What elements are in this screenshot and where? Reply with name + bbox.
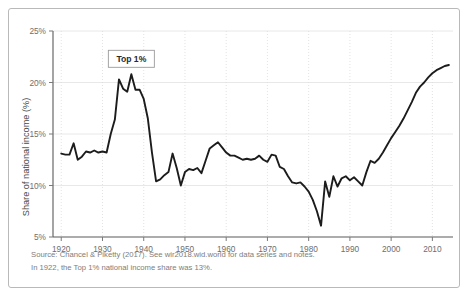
source-note: Source: Chancel & Piketty (2017). See wi… [31, 250, 315, 259]
y-axis-title: Share of national income (%) [21, 98, 31, 216]
legend-label-text: Top 1% [116, 54, 146, 64]
y-tick-label: 5% [34, 232, 47, 242]
y-tick-label: 15% [29, 129, 46, 139]
series-line-top-1 [61, 65, 449, 226]
legend-top-1-percent: Top 1% [108, 50, 154, 67]
y-tick-label: 25% [29, 26, 46, 36]
data-note: In 1922, the Top 1% national income shar… [31, 263, 212, 272]
tick-labels: 5%10%15%20%25%19201930194019501960197019… [29, 26, 442, 254]
x-tick-label: 2000 [382, 244, 401, 254]
x-tick-label: 2010 [423, 244, 442, 254]
y-tick-label: 20% [29, 78, 46, 88]
y-tick-label: 10% [29, 181, 46, 191]
line-chart: 5%10%15%20%25%19201930194019501960197019… [9, 9, 461, 289]
chart-card: 5%10%15%20%25%19201930194019501960197019… [8, 8, 460, 288]
x-tick-label: 1990 [341, 244, 360, 254]
chart-plot-container: 5%10%15%20%25%19201930194019501960197019… [9, 9, 461, 289]
series-top-1-percent [61, 65, 449, 226]
